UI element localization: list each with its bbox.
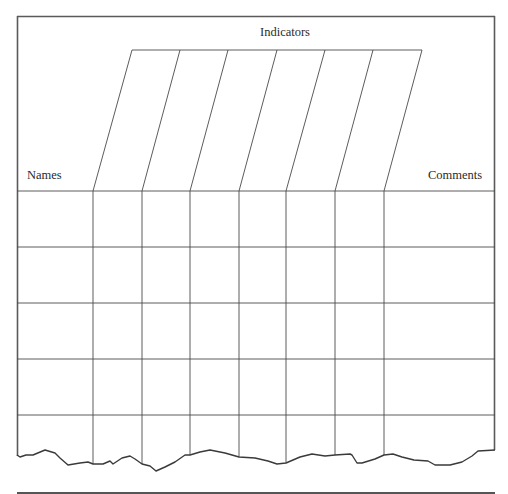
grid-row-lines — [17, 191, 495, 415]
indicators-heading: Indicators — [260, 26, 310, 39]
record-form-graphic — [0, 0, 508, 494]
form-frame — [17, 16, 495, 456]
grid-column-lines — [93, 191, 384, 464]
comments-column-heading: Comments — [428, 169, 482, 182]
names-column-heading: Names — [27, 169, 62, 182]
indicator-header-slants — [93, 50, 422, 191]
torn-edge — [17, 450, 495, 471]
